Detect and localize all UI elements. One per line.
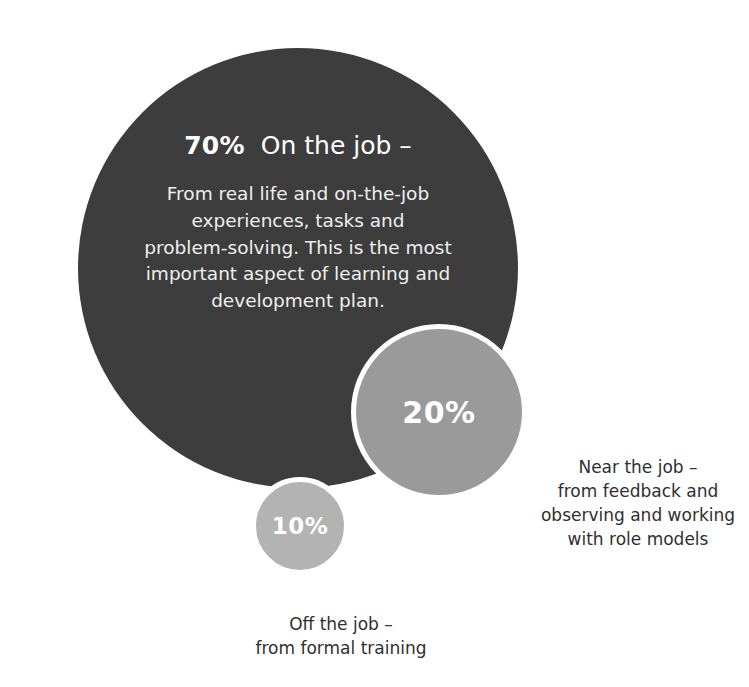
caption-line: from formal training — [198, 636, 484, 660]
caption-near-the-job: Near the job – from feedback and observi… — [527, 455, 749, 552]
bubble-near-the-job[interactable]: 20% — [351, 324, 527, 500]
bubble-20-percent-label: 20% — [402, 395, 475, 430]
infographic-canvas: 20% 10% 70% On the job – From real life … — [0, 0, 749, 687]
caption-off-the-job: Off the job – from formal training — [198, 612, 484, 660]
bubble-off-the-job[interactable]: 10% — [251, 477, 349, 575]
caption-line: with role models — [527, 527, 749, 551]
bubble-10-percent-label: 10% — [272, 513, 329, 539]
caption-line: observing and working — [527, 503, 749, 527]
caption-line: Off the job – — [198, 612, 484, 636]
caption-line: from feedback and — [527, 479, 749, 503]
caption-line: Near the job – — [527, 455, 749, 479]
